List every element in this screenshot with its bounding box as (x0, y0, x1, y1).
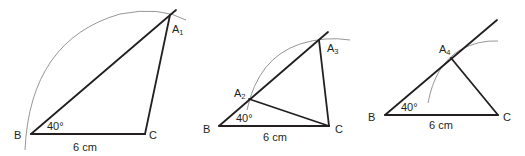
angle-label: 40° (401, 101, 418, 113)
side-ca2 (249, 99, 329, 126)
angle-label: 40° (47, 120, 64, 132)
figure-1: B C A1 40° 6 cm (14, 10, 186, 153)
angle-label: 40° (236, 112, 253, 124)
vertex-c-label: C (503, 111, 511, 123)
vertex-b-label: B (203, 123, 210, 135)
vertex-a4-label: A4 (439, 43, 451, 57)
triangle-construction-diagram: B C A1 40° 6 cm B C A2 A3 40° 6 cm B C A… (0, 0, 525, 156)
base-length-label: 6 cm (263, 131, 287, 143)
base-length-label: 6 cm (73, 141, 97, 153)
vertex-c-label: C (149, 129, 157, 141)
vertex-a1-label: A1 (172, 23, 184, 37)
vertex-a3-label: A3 (327, 42, 339, 56)
figure-3: B C A4 40° 6 cm (368, 20, 511, 131)
vertex-a2-label: A2 (234, 87, 246, 101)
vertex-b-label: B (368, 111, 375, 123)
figure-2: B C A2 A3 40° 6 cm (203, 32, 350, 143)
vertex-b-label: B (14, 129, 21, 141)
ray-ba1 (31, 10, 176, 134)
side-ca4 (451, 58, 498, 115)
base-length-label: 6 cm (429, 119, 453, 131)
vertex-c-label: C (335, 123, 343, 135)
